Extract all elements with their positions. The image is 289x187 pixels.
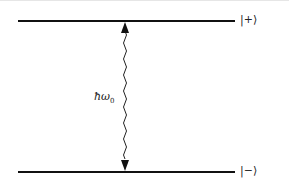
- diagram-graphics: [0, 1, 289, 187]
- upper-state-label: |+⟩: [240, 13, 257, 26]
- arrow-down-icon: [121, 160, 129, 171]
- arrow-up-icon: [121, 22, 129, 33]
- energy-level-diagram: ħω0 |+⟩ |−⟩: [0, 0, 289, 187]
- transition-energy-label: ħω0: [94, 90, 115, 105]
- lower-state-label: |−⟩: [240, 164, 257, 177]
- wavy-transition-line: [124, 31, 127, 159]
